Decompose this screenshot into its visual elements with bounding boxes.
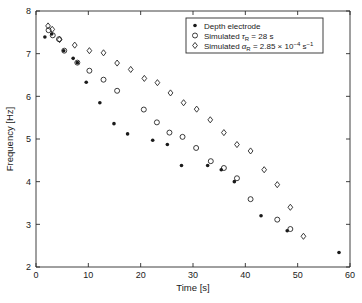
data-point bbox=[221, 130, 226, 136]
y-tick-label: 7 bbox=[26, 49, 31, 59]
data-point bbox=[128, 66, 133, 72]
data-point bbox=[180, 134, 185, 139]
data-point bbox=[234, 176, 239, 181]
x-tick-label: 0 bbox=[33, 270, 38, 280]
data-point bbox=[87, 68, 92, 73]
data-point bbox=[84, 80, 88, 84]
data-point bbox=[154, 120, 159, 125]
figure-container: 01020304050602345678 Depth electrodeSimu… bbox=[0, 0, 362, 303]
legend-label-0: Depth electrode bbox=[204, 22, 261, 31]
x-tick-label: 30 bbox=[188, 270, 198, 280]
data-point bbox=[275, 182, 280, 188]
data-point bbox=[208, 117, 213, 123]
series-1 bbox=[46, 28, 293, 232]
data-point bbox=[221, 166, 226, 171]
data-point bbox=[288, 204, 293, 210]
series-0 bbox=[43, 32, 341, 254]
data-point bbox=[288, 227, 293, 232]
y-tick-label: 3 bbox=[26, 220, 31, 230]
data-point bbox=[301, 233, 306, 239]
data-point bbox=[248, 197, 253, 202]
y-tick-label: 2 bbox=[26, 262, 31, 272]
data-point bbox=[208, 159, 213, 164]
x-tick-label: 10 bbox=[83, 270, 93, 280]
data-point bbox=[235, 141, 240, 147]
data-point bbox=[151, 138, 155, 142]
data-point bbox=[101, 77, 106, 82]
data-point bbox=[141, 107, 146, 112]
y-tick-label: 6 bbox=[26, 92, 31, 102]
scatter-plot: 01020304050602345678 Depth electrodeSimu… bbox=[0, 0, 362, 303]
data-point bbox=[115, 60, 120, 66]
data-point bbox=[76, 61, 80, 65]
x-tick-label: 40 bbox=[240, 270, 250, 280]
y-tick-label: 4 bbox=[26, 177, 31, 187]
data-point bbox=[166, 143, 170, 147]
data-point bbox=[101, 50, 106, 56]
data-point bbox=[181, 100, 186, 106]
data-point bbox=[155, 80, 160, 86]
data-point bbox=[126, 132, 130, 136]
data-point bbox=[112, 122, 116, 126]
x-tick-label: 50 bbox=[293, 270, 303, 280]
data-point bbox=[262, 167, 267, 173]
data-point bbox=[98, 101, 102, 105]
y-tick-label: 8 bbox=[26, 6, 31, 16]
data-point bbox=[259, 214, 263, 218]
data-point bbox=[87, 48, 92, 54]
legend-marker-0 bbox=[193, 24, 197, 28]
data-point bbox=[71, 57, 75, 61]
data-point bbox=[275, 217, 280, 222]
data-point bbox=[72, 42, 77, 48]
data-point bbox=[248, 148, 253, 154]
data-point bbox=[115, 88, 120, 93]
x-tick-label: 60 bbox=[345, 270, 355, 280]
data-point bbox=[194, 145, 199, 150]
y-tick-label: 5 bbox=[26, 134, 31, 144]
x-tick-label: 20 bbox=[136, 270, 146, 280]
data-point bbox=[167, 130, 172, 135]
x-axis-label: Time [s] bbox=[176, 282, 209, 293]
chart-legend: Depth electrodeSimulated τR = 28 sSimula… bbox=[186, 18, 323, 53]
data-point bbox=[168, 90, 173, 96]
data-point bbox=[180, 164, 184, 168]
legend-label-1: Simulated τR = 28 s bbox=[204, 32, 273, 42]
data-point bbox=[337, 251, 341, 255]
series-2 bbox=[46, 23, 306, 239]
data-series bbox=[43, 23, 341, 254]
data-point bbox=[142, 75, 147, 81]
y-axis-label: Frequency [Hz] bbox=[4, 107, 15, 171]
data-point bbox=[194, 106, 199, 112]
data-point bbox=[206, 164, 210, 168]
data-point bbox=[43, 35, 47, 39]
